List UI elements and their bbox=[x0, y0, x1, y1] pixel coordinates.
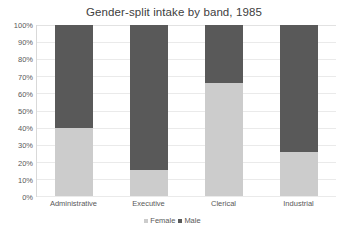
y-axis-tick-label: 80% bbox=[0, 55, 33, 64]
plot-area bbox=[36, 25, 336, 197]
x-axis-tick-label: Industrial bbox=[261, 199, 336, 213]
gridline bbox=[37, 196, 336, 197]
legend-entry-male[interactable]: Male bbox=[178, 216, 203, 225]
bar-slot bbox=[261, 25, 336, 196]
y-axis-tick-label: 50% bbox=[0, 107, 33, 116]
legend-entry-female[interactable]: Female bbox=[144, 216, 178, 225]
bar-segment-female[interactable] bbox=[280, 152, 318, 196]
bar-slot bbox=[112, 25, 187, 196]
chart-title: Gender-split intake by band, 1985 bbox=[0, 6, 348, 18]
legend-label: Female bbox=[150, 216, 175, 225]
stacked-bar[interactable] bbox=[280, 25, 318, 196]
bar-segment-male[interactable] bbox=[55, 25, 93, 128]
bar-segment-female[interactable] bbox=[130, 170, 168, 196]
bar-slot bbox=[37, 25, 112, 196]
bar-segment-male[interactable] bbox=[205, 25, 243, 83]
x-axis-tick-label: Clerical bbox=[186, 199, 261, 213]
bar-segment-male[interactable] bbox=[280, 25, 318, 152]
bar-segment-female[interactable] bbox=[55, 128, 93, 196]
bars-layer bbox=[37, 25, 336, 196]
bar-slot bbox=[187, 25, 262, 196]
y-axis: 0%10%20%30%40%50%60%70%80%90%100% bbox=[0, 25, 33, 197]
bar-segment-female[interactable] bbox=[205, 83, 243, 196]
stacked-bar[interactable] bbox=[205, 25, 243, 196]
x-axis-tick-label: Administrative bbox=[36, 199, 111, 213]
legend-label: Male bbox=[184, 216, 200, 225]
chart-container: Gender-split intake by band, 1985 0%10%2… bbox=[0, 0, 348, 239]
y-axis-tick-label: 40% bbox=[0, 124, 33, 133]
y-axis-tick-label: 20% bbox=[0, 158, 33, 167]
x-axis: AdministrativeExecutiveClericalIndustria… bbox=[36, 199, 336, 213]
y-axis-tick-label: 90% bbox=[0, 38, 33, 47]
x-axis-tick-label: Executive bbox=[111, 199, 186, 213]
bar-segment-male[interactable] bbox=[130, 25, 168, 170]
y-axis-tick-label: 0% bbox=[0, 193, 33, 202]
stacked-bar[interactable] bbox=[130, 25, 168, 196]
y-axis-tick-label: 70% bbox=[0, 72, 33, 81]
legend-swatch-icon bbox=[178, 219, 182, 223]
y-axis-tick-label: 10% bbox=[0, 175, 33, 184]
stacked-bar[interactable] bbox=[55, 25, 93, 196]
y-axis-tick-label: 100% bbox=[0, 21, 33, 30]
y-axis-tick-label: 30% bbox=[0, 141, 33, 150]
y-axis-tick-label: 60% bbox=[0, 89, 33, 98]
legend-swatch-icon bbox=[144, 219, 148, 223]
chart-legend: FemaleMale bbox=[0, 216, 348, 225]
